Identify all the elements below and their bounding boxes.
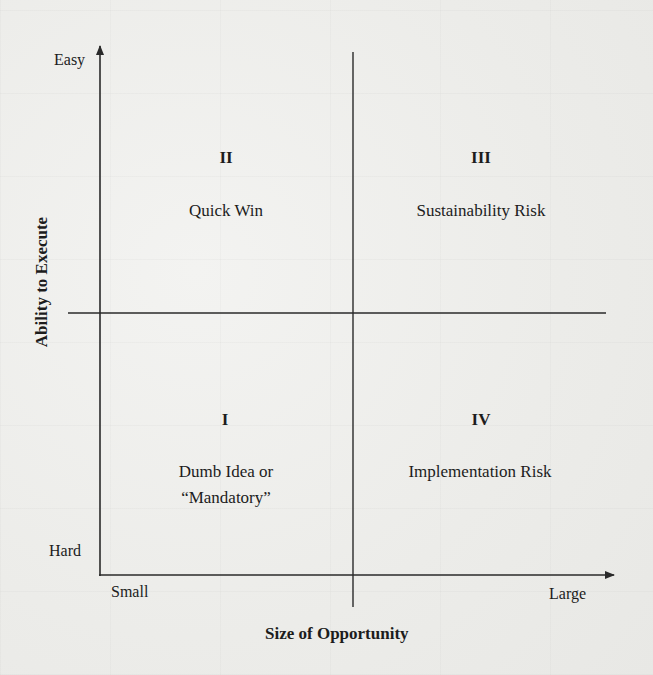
y-axis-low-label: Hard [49,543,81,559]
x-axis-high-label: Large [549,586,586,602]
quadrant-i-label-line1: Dumb Idea or [179,459,273,485]
quadrant-ii-number: II [219,149,232,166]
quadrant-iii-label: Sustainability Risk [417,198,546,224]
quadrant-i-label: Dumb Idea or “Mandatory” [179,459,273,511]
quadrant-ii-label: Quick Win [189,198,263,224]
y-axis-high-label: Easy [54,52,85,68]
quadrant-iv-number: IV [472,411,491,428]
quadrant-i-number: I [222,411,229,428]
x-axis-low-label: Small [111,584,148,600]
quadrant-i-label-line2: “Mandatory” [179,485,273,511]
quadrant-iii-number: III [471,149,491,166]
matrix-axes [0,0,653,675]
y-axis-title: Ability to Execute [32,217,52,347]
quadrant-iv-label: Implementation Risk [408,459,551,485]
x-axis-title: Size of Opportunity [265,625,409,642]
